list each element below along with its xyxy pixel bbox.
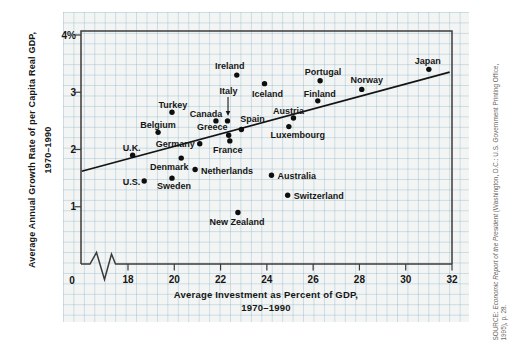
x-tick-label-32: 32 xyxy=(446,274,458,285)
data-point-switzerland xyxy=(285,193,290,198)
data-point-germany xyxy=(197,141,202,146)
country-label-netherlands: Netherlands xyxy=(201,166,253,176)
country-label-sweden: Sweden xyxy=(157,181,191,191)
data-point-greece xyxy=(226,132,231,137)
country-label-u-s: U.S. xyxy=(123,177,141,187)
country-label-france: France xyxy=(213,145,243,155)
data-point-iceland xyxy=(262,81,267,86)
source-citation: SOURCE: Economic Report of the President… xyxy=(492,21,509,341)
source-title: Economic Report of the President xyxy=(492,214,499,310)
x-tick-label-30: 30 xyxy=(400,274,412,285)
data-point-australia xyxy=(269,173,274,178)
source-prefix: SOURCE: xyxy=(492,310,499,341)
data-point-u-s xyxy=(142,178,147,183)
country-label-italy: Italy xyxy=(220,86,238,96)
label-arrowhead-italy xyxy=(226,111,231,116)
country-label-turkey: Turkey xyxy=(159,100,188,110)
data-point-japan xyxy=(426,67,431,72)
y-tick-label-1: 1 xyxy=(70,201,76,212)
data-point-new-zealand xyxy=(235,210,240,215)
country-label-belgium: Belgium xyxy=(140,120,176,130)
x-tick-label-26: 26 xyxy=(308,274,320,285)
data-point-belgium xyxy=(155,130,160,135)
country-label-luxembourg: Luxembourg xyxy=(271,130,326,140)
country-label-japan: Japan xyxy=(415,56,441,66)
x-tick-label-22: 22 xyxy=(215,274,227,285)
country-label-germany: Germany xyxy=(156,139,195,149)
data-point-austria xyxy=(291,115,296,120)
data-point-u-k xyxy=(130,153,135,158)
country-label-norway: Norway xyxy=(350,75,383,85)
x-tick-label-20: 20 xyxy=(169,274,181,285)
x-axis-title-line2: 1970–1990 xyxy=(241,302,290,313)
y-tick-label-3: 3 xyxy=(70,87,76,98)
data-point-spain xyxy=(239,127,244,132)
x-tick-label-28: 28 xyxy=(354,274,366,285)
data-point-portugal xyxy=(317,78,322,83)
x-axis-title: Average Investment as Percent of GDP, 19… xyxy=(116,288,416,314)
country-label-spain: Spain xyxy=(240,114,265,124)
country-label-australia: Australia xyxy=(277,171,317,181)
country-label-switzerland: Switzerland xyxy=(294,191,344,201)
country-label-iceland: Iceland xyxy=(252,89,283,99)
y-tick-label-2: 2 xyxy=(70,144,76,155)
data-point-denmark xyxy=(179,155,184,160)
data-point-luxembourg xyxy=(286,124,291,129)
data-point-finland xyxy=(315,98,320,103)
data-point-italy xyxy=(225,118,230,123)
x-axis-title-line1: Average Investment as Percent of GDP, xyxy=(174,289,358,300)
country-label-denmark: Denmark xyxy=(150,162,190,172)
country-label-u-k: U.K. xyxy=(123,143,141,153)
data-point-france xyxy=(227,138,232,143)
country-label-greece: Greece xyxy=(197,122,228,132)
country-label-portugal: Portugal xyxy=(305,67,342,77)
x-tick-label-18: 18 xyxy=(122,274,134,285)
source-line2: 1995), p. 28. xyxy=(500,305,507,341)
source-suffix: (Washington, D.C.: U.S. Government Print… xyxy=(492,64,499,214)
data-point-norway xyxy=(359,87,364,92)
country-label-new-zealand: New Zealand xyxy=(209,217,264,227)
data-point-turkey xyxy=(169,110,174,115)
data-point-ireland xyxy=(234,72,239,77)
y-origin-label: 0 xyxy=(69,275,75,286)
country-label-canada: Canada xyxy=(190,109,224,119)
x-tick-label-24: 24 xyxy=(261,274,273,285)
trend-line xyxy=(82,72,450,171)
country-label-ireland: Ireland xyxy=(215,61,245,71)
y-tick-label-4: 4% xyxy=(62,30,77,41)
data-point-netherlands xyxy=(192,167,197,172)
country-label-austria: Austria xyxy=(273,106,305,116)
figure-investment-growth-scatter: Average Annual Growth Rate of per Capita… xyxy=(0,0,514,341)
country-label-finland: Finland xyxy=(304,89,336,99)
